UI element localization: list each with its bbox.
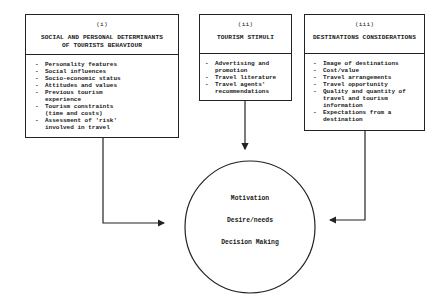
box-destinations-considerations: (iii) DESTINATIONS CONSIDERATIONS -Image…	[304, 14, 425, 131]
box-title: TOURISM STIMULI	[200, 34, 291, 42]
list-item: -Expectations from a destination	[313, 109, 420, 123]
decision-circle	[185, 161, 315, 293]
box-number: (iii)	[305, 21, 424, 29]
box-list: -Advertising and promotion -Travel liter…	[200, 54, 291, 95]
list-item: -Personality features	[35, 61, 174, 68]
list-item: -Quality and quantity of travel and tour…	[313, 88, 420, 109]
arrow-from-box-i	[103, 137, 164, 223]
circle-label-decision-making: Decision Making	[185, 239, 315, 246]
list-item: -Socio-economic status	[35, 75, 174, 82]
list-item: -Travel opportunity	[313, 81, 420, 88]
list-item: -Tourism constraints (time and costs)	[35, 103, 174, 117]
list-item: -Advertising and promotion	[205, 60, 287, 74]
list-item: -Travel arrangements	[313, 74, 420, 81]
box-list: -Image of destinations -Cost/value -Trav…	[305, 54, 424, 123]
box-list: -Personality features -Social influences…	[26, 55, 178, 131]
circle-label-desire-needs: Desire/needs	[185, 217, 315, 224]
list-item: -Assessment of 'risk' involved in travel	[35, 117, 174, 131]
circle-label-motivation: Motivation	[185, 195, 315, 202]
list-item: -Attitudes and values	[35, 82, 174, 89]
list-item: -Travel literature	[205, 74, 287, 81]
box-number: (i)	[26, 21, 178, 29]
box-number: (ii)	[200, 21, 291, 29]
box-title: DESTINATIONS CONSIDERATIONS	[305, 34, 424, 42]
box-title: SOCIAL AND PERSONAL DETERMINANTS	[26, 34, 178, 42]
list-item: -Social influences	[35, 68, 174, 75]
list-item: -Image of destinations	[313, 60, 420, 67]
box-tourism-stimuli: (ii) TOURISM STIMULI -Advertising and pr…	[199, 14, 292, 101]
box-social-personal-determinants: (i) SOCIAL AND PERSONAL DETERMINANTS OF …	[25, 14, 179, 138]
box-header: (i) SOCIAL AND PERSONAL DETERMINANTS OF …	[26, 15, 178, 55]
box-header: (iii) DESTINATIONS CONSIDERATIONS	[305, 15, 424, 54]
box-title-line2: OF TOURISTS BEHAVIOUR	[26, 42, 178, 50]
list-item: -Previous tourism experience	[35, 89, 174, 103]
arrow-from-box-iii	[330, 130, 365, 220]
list-item: -Cost/value	[313, 67, 420, 74]
box-header: (ii) TOURISM STIMULI	[200, 15, 291, 54]
list-item: -Travel agents' recommendations	[205, 81, 287, 95]
